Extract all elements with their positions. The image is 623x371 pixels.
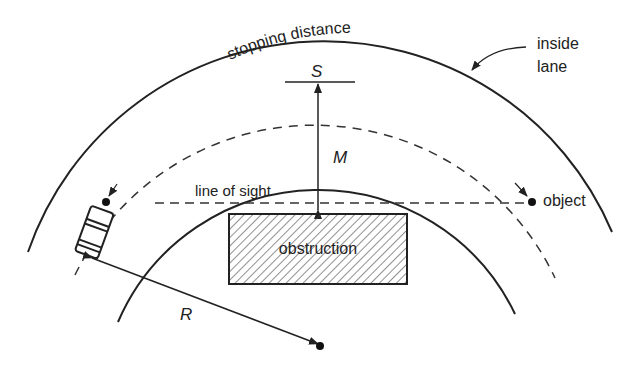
label-R: R <box>180 305 192 324</box>
label-line-of-sight: line of sight <box>195 182 272 199</box>
label-obstruction: obstruction <box>279 240 357 257</box>
vehicle-icon <box>75 206 114 259</box>
object-point <box>528 198 536 206</box>
label-object: object <box>543 192 586 209</box>
sight-distance-diagram: S M line of sight obstruction object R s… <box>0 0 623 371</box>
inside-lane-pointer <box>472 47 526 70</box>
label-S: S <box>311 62 323 81</box>
center-point <box>316 342 324 350</box>
label-lane: lane <box>537 58 567 75</box>
label-M: M <box>333 148 348 167</box>
label-inside: inside <box>537 35 579 52</box>
